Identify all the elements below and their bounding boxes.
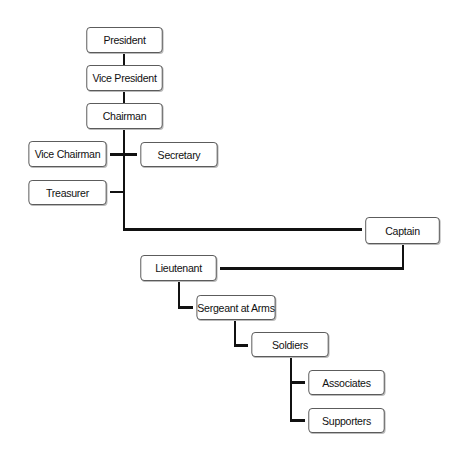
connector-treasurer <box>110 191 124 193</box>
node-label: Chairman <box>103 110 147 122</box>
connector-lieutenant-down <box>178 281 180 308</box>
node-label: Supporters <box>322 415 371 427</box>
node-label: Soldiers <box>272 339 308 351</box>
connector-vice-chairman-secretary <box>110 153 137 156</box>
node-label: Sergeant at Arms <box>197 302 274 314</box>
connector-chairman-captain <box>123 228 362 231</box>
node-captain: Captain <box>365 217 440 244</box>
connector-president-vice-president <box>123 53 125 65</box>
connector-sergeant-soldiers <box>234 344 248 347</box>
node-label: Captain <box>385 225 420 237</box>
node-associates: Associates <box>308 370 384 395</box>
node-sergeant-at-arms: Sergeant at Arms <box>196 295 275 320</box>
node-treasurer: Treasurer <box>28 180 106 205</box>
node-soldiers: Soldiers <box>251 332 328 357</box>
connector-chairman-trunk <box>123 129 125 230</box>
node-label: Lieutenant <box>155 262 202 274</box>
node-label: Vice Chairman <box>35 148 101 160</box>
connector-vice-president-chairman <box>123 91 125 103</box>
node-label: Secretary <box>158 149 201 161</box>
connector-soldiers-supporters <box>290 419 305 422</box>
node-vice-chairman: Vice Chairman <box>28 141 106 167</box>
connector-sergeant-down <box>234 320 236 346</box>
connector-lieutenant-sergeant <box>178 306 193 309</box>
node-label: Vice President <box>92 72 156 84</box>
node-label: Treasurer <box>46 187 89 199</box>
node-label: Associates <box>322 377 370 389</box>
connector-soldiers-down <box>290 357 292 422</box>
node-lieutenant: Lieutenant <box>140 255 216 281</box>
org-chart: President Vice President Chairman Vice C… <box>0 0 467 460</box>
node-vice-president: Vice President <box>86 65 162 91</box>
node-president: President <box>86 27 162 53</box>
node-label: President <box>103 34 145 46</box>
connector-captain-down <box>402 244 404 269</box>
node-supporters: Supporters <box>308 408 384 433</box>
connector-soldiers-associates <box>290 381 305 384</box>
connector-captain-lieutenant <box>220 267 404 270</box>
node-secretary: Secretary <box>140 142 217 167</box>
node-chairman: Chairman <box>86 103 162 129</box>
